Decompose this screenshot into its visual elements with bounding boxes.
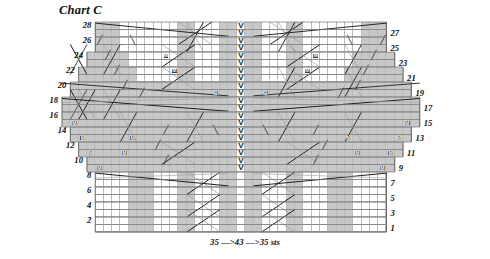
grid-cell: [178, 67, 186, 75]
row-number-right: 7: [390, 179, 408, 188]
grid-cell: [228, 142, 236, 150]
grid-cell: [104, 67, 112, 75]
grid-cell: [353, 67, 361, 75]
grid-cell: [378, 165, 386, 173]
grid-cell: [287, 120, 295, 128]
grid-cell: [262, 187, 270, 195]
grid-cell: [112, 217, 120, 225]
grid-cell: [145, 180, 153, 188]
grid-cell: [145, 112, 153, 120]
grid-cell: [162, 60, 170, 68]
grid-cell: [303, 150, 311, 158]
grid-cell: [320, 187, 328, 195]
grid-cell: [237, 30, 245, 38]
grid-cell: [203, 195, 211, 203]
grid-cell: [253, 157, 261, 165]
grid-cell: [104, 157, 112, 165]
grid-cell: [378, 202, 386, 210]
grid-cell: [104, 135, 112, 143]
grid-cell: [220, 120, 228, 128]
grid-cell: [187, 172, 195, 180]
grid-cell: [328, 225, 336, 233]
grid-cell: [345, 202, 353, 210]
grid-cell: [145, 127, 153, 135]
grid-cell: [112, 120, 120, 128]
grid-cell: [378, 82, 386, 90]
row-number-left: 8: [73, 171, 91, 180]
grid-cell: [112, 97, 120, 105]
grid-cell: [345, 195, 353, 203]
grid-cell: [104, 90, 112, 98]
grid-cell: [270, 90, 278, 98]
grid-cell: [228, 112, 236, 120]
grid-cell: [312, 90, 320, 98]
grid-cell: [278, 52, 286, 60]
grid-cell: [145, 187, 153, 195]
grid-cell: [228, 210, 236, 218]
grid-cell: [245, 150, 253, 158]
grid-cell: [245, 187, 253, 195]
grid-cell: [212, 157, 220, 165]
grid-cell: [129, 217, 137, 225]
grid-cell: [287, 157, 295, 165]
grid-cell: [145, 75, 153, 83]
grid-cell: [87, 52, 95, 60]
grid-cell: [187, 82, 195, 90]
grid-cell: [378, 22, 386, 30]
grid-cell: [162, 187, 170, 195]
grid-cell: [278, 165, 286, 173]
grid-cell: [170, 217, 178, 225]
grid-cell: [278, 172, 286, 180]
grid-cell: [270, 75, 278, 83]
grid-cell: [212, 135, 220, 143]
grid-cell: [195, 127, 203, 135]
grid-cell: [362, 45, 370, 53]
grid-cell: [278, 60, 286, 68]
grid-cell: [145, 195, 153, 203]
grid-cell: [170, 105, 178, 113]
grid-cell: [220, 67, 228, 75]
grid-cell: [95, 195, 103, 203]
grid-cell: [328, 37, 336, 45]
grid-cell: [154, 127, 162, 135]
grid-cell: [245, 60, 253, 68]
grid-cell: [79, 75, 87, 83]
grid-cell: [120, 142, 128, 150]
grid-cell: [62, 97, 70, 105]
grid-cell: [262, 225, 270, 233]
grid-cell: [162, 217, 170, 225]
grid-cell: [303, 45, 311, 53]
grid-cell: [203, 210, 211, 218]
grid-cell: [262, 52, 270, 60]
grid-cell: [370, 75, 378, 83]
grid-cell: [287, 225, 295, 233]
grid-cell: [262, 180, 270, 188]
grid-cell: [70, 112, 78, 120]
grid-cell: [345, 105, 353, 113]
grid-cell: [353, 45, 361, 53]
grid-cell: [228, 82, 236, 90]
grid-cell: [203, 22, 211, 30]
row-number-left: 6: [73, 186, 91, 195]
grid-cell: [378, 135, 386, 143]
grid-cell: [112, 127, 120, 135]
grid-cell: [270, 142, 278, 150]
grid-cell: [154, 82, 162, 90]
grid-cell: [295, 37, 303, 45]
grid-cell: [262, 67, 270, 75]
grid-cell: [104, 127, 112, 135]
grid-cell: [370, 195, 378, 203]
grid-cell: [129, 180, 137, 188]
grid-cell: [203, 127, 211, 135]
grid-cell: [203, 217, 211, 225]
grid-cell: [337, 37, 345, 45]
row-number-right: 17: [424, 104, 442, 113]
grid-cell: [270, 180, 278, 188]
grid-cell: [137, 37, 145, 45]
grid-cell: [120, 82, 128, 90]
grid-cell: [245, 120, 253, 128]
grid-cell: [303, 165, 311, 173]
grid-cell: [312, 127, 320, 135]
grid-cell: [253, 172, 261, 180]
grid-cell: [70, 120, 78, 128]
